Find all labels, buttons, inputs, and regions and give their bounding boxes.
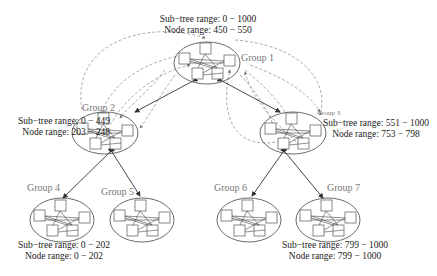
group-4-ranges: Sub−tree range: 0 − 202 Node range: 0 − … bbox=[14, 240, 114, 262]
group-4-nodes bbox=[34, 200, 90, 236]
group-7-node-range: Node range: 799 − 1000 bbox=[280, 251, 390, 262]
group-2-label: Group 2 bbox=[82, 102, 115, 113]
group-2-ranges: Sub−tree range: 0 − 449 Node range: 203 … bbox=[0, 116, 110, 138]
group-2-node-range: Node range: 203 − 248 bbox=[0, 127, 110, 138]
group-1-subtree-range: Sub−tree range: 0 − 1000 bbox=[158, 14, 258, 25]
group-7-label: Group 7 bbox=[327, 182, 360, 193]
group-5-label: Group 5 bbox=[101, 186, 134, 197]
group-1-nodes bbox=[179, 43, 235, 79]
group-7-ranges: Sub−tree range: 799 − 1000 Node range: 7… bbox=[280, 240, 390, 262]
group-7-subtree-range: Sub−tree range: 799 − 1000 bbox=[280, 240, 390, 251]
group-4-label: Group 4 bbox=[27, 182, 60, 193]
group-7-nodes bbox=[300, 200, 356, 236]
group-6-label: Group 6 bbox=[214, 182, 247, 193]
group-6-nodes bbox=[221, 200, 277, 236]
group-1-ranges: Sub−tree range: 0 − 1000 Node range: 450… bbox=[158, 14, 258, 36]
group-3-subtree-range: Sub−tree range: 551 − 1000 bbox=[315, 118, 437, 129]
group-1-label: Group 1 bbox=[241, 52, 274, 63]
group-1-node-range: Node range: 450 − 550 bbox=[158, 25, 258, 36]
group-4-subtree-range: Sub−tree range: 0 − 202 bbox=[14, 240, 114, 251]
group-3-ranges: Sub−tree range: 551 − 1000 Node range: 7… bbox=[315, 118, 437, 140]
group-3-nodes bbox=[265, 113, 321, 149]
group-4-node-range: Node range: 0 − 202 bbox=[14, 251, 114, 262]
group-3-node-range: Node range: 753 − 798 bbox=[315, 129, 437, 140]
group-5-nodes bbox=[114, 200, 170, 236]
group-3-label: Group 3 bbox=[317, 109, 340, 117]
group-2-subtree-range: Sub−tree range: 0 − 449 bbox=[0, 116, 110, 127]
